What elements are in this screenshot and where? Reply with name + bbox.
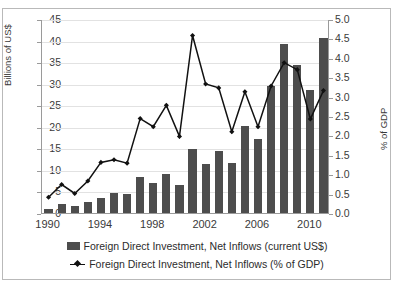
line-marker	[216, 85, 221, 90]
line-marker	[111, 157, 116, 162]
y-axis-right-tick-label: 2.0	[335, 130, 369, 140]
y-axis-left-title: Billions of US$	[2, 24, 13, 86]
x-axis-tick-label: 2006	[232, 218, 282, 230]
y-axis-right-tick-label: 1.0	[335, 169, 369, 179]
line-series-svg	[42, 20, 330, 214]
y-axis-left-tick-mark	[37, 214, 41, 215]
y-axis-right-tick-label: 3.5	[335, 72, 369, 82]
line-marker	[255, 124, 260, 129]
x-axis-tick-label: 2010	[284, 218, 334, 230]
y-axis-right-tick-label: 5.0	[335, 14, 369, 24]
line-series-layer	[42, 20, 328, 213]
y-axis-right-tick-label: 2.5	[335, 111, 369, 121]
y-axis-right-title: % of GDP	[378, 108, 389, 150]
y-axis-right-tick-mark	[329, 214, 333, 215]
x-axis-tick-label: 1994	[75, 218, 125, 230]
line-marker	[308, 116, 313, 121]
x-axis-tick-label: 1990	[23, 218, 73, 230]
line-marker	[203, 81, 208, 86]
legend-line-label: Foreign Direct Investment, Net Inflows (…	[89, 258, 324, 270]
legend-item-line: Foreign Direct Investment, Net Inflows (…	[0, 258, 394, 270]
line-marker	[177, 134, 182, 139]
line-marker	[125, 161, 130, 166]
y-axis-right-tick-label: 0.0	[335, 208, 369, 218]
line-marker	[190, 33, 195, 38]
x-axis-tick-label: 2002	[180, 218, 230, 230]
line-path	[49, 36, 324, 198]
y-axis-right-tick-label: 1.5	[335, 150, 369, 160]
x-axis-tick-label: 1998	[127, 218, 177, 230]
y-axis-right-tick-label: 4.0	[335, 53, 369, 63]
line-marker	[321, 88, 326, 93]
line-marker	[229, 129, 234, 134]
legend-line-marker-icon	[70, 260, 85, 269]
legend-item-bar: Foreign Direct Investment, Net Inflows (…	[0, 240, 394, 252]
y-axis-right-tick-label: 3.0	[335, 92, 369, 102]
legend-bar-label: Foreign Direct Investment, Net Inflows (…	[84, 240, 328, 252]
y-axis-right-tick-label: 4.5	[335, 33, 369, 43]
line-marker	[242, 89, 247, 94]
chart-figure: Billions of US$ % of GDP 051015202530354…	[0, 0, 394, 284]
legend-bar-swatch-icon	[67, 242, 80, 250]
y-axis-right-tick-label: 0.5	[335, 189, 369, 199]
plot-area	[41, 20, 329, 214]
